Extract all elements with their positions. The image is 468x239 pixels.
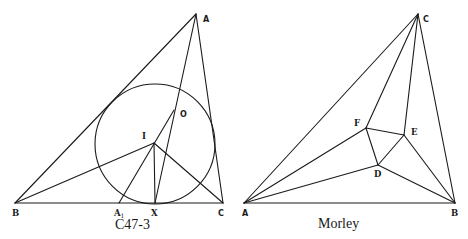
caption-left: C47-3: [115, 217, 150, 232]
segment-IX: [154, 143, 155, 203]
label-B-right: B: [451, 208, 458, 218]
label-C-left: C: [218, 209, 224, 218]
figure-morley: A B C D E F Morley: [242, 14, 458, 231]
segment-CE: [404, 14, 418, 135]
geometry-figures: A B C I O A1 X C47-3 A B C D E F Morley: [0, 0, 468, 239]
figure-c47-3: A B C I O A1 X C47-3: [12, 14, 224, 232]
label-I: I: [142, 131, 146, 141]
label-E: E: [411, 127, 418, 137]
segment-DE: [378, 135, 404, 165]
segment-FD: [366, 128, 378, 165]
segment-AC-right: [244, 14, 418, 203]
label-X: X: [151, 208, 158, 218]
segment-BC-right: [418, 14, 455, 203]
segment-AC: [196, 14, 223, 203]
segment-AD: [244, 165, 378, 203]
label-D: D: [374, 169, 382, 179]
segment-EF: [366, 128, 404, 135]
label-B-left: B: [12, 208, 19, 218]
segment-AB: [15, 14, 196, 203]
segment-BE: [404, 135, 455, 203]
segment-A1-O: [119, 110, 174, 203]
segment-BD: [378, 165, 455, 203]
label-O: O: [180, 110, 187, 119]
segment-CF: [366, 14, 418, 128]
label-C-right: C: [423, 15, 429, 24]
label-F: F: [354, 118, 360, 128]
caption-right: Morley: [318, 216, 359, 231]
label-A-left: A: [203, 15, 210, 24]
label-A-right: A: [242, 209, 249, 218]
segment-IB: [15, 143, 154, 203]
segment-AF: [244, 128, 366, 203]
